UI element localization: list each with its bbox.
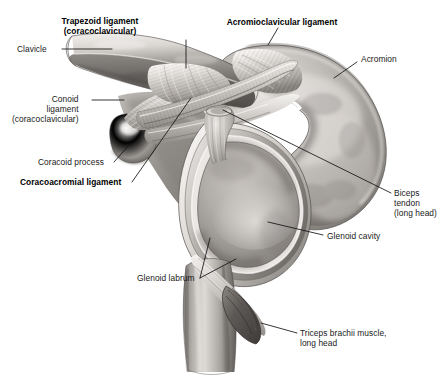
label-biceps-tendon: Biceps tendon (long head) (394, 188, 437, 219)
label-triceps-brachii: Triceps brachii muscle, long head (300, 328, 386, 348)
label-acromion: Acromion (361, 54, 397, 64)
label-conoid-ligament: Conoid ligament (coracoclavicular) (12, 94, 79, 125)
label-coracoacromial-ligament: Coracoacromial ligament (20, 177, 121, 187)
label-trapezoid-ligament: Trapezoid ligament (coracoclavicular) (62, 16, 139, 36)
label-glenoid-cavity: Glenoid cavity (327, 231, 380, 241)
label-glenoid-labrum: Glenoid labrum (137, 273, 195, 283)
anatomy-figure: ClavicleTrapezoid ligament (coracoclavic… (0, 0, 448, 381)
label-acromioclavicular-ligament: Acromioclavicular ligament (227, 17, 338, 27)
label-clavicle: Clavicle (17, 44, 47, 54)
label-coracoid-process: Coracoid process (38, 157, 104, 167)
